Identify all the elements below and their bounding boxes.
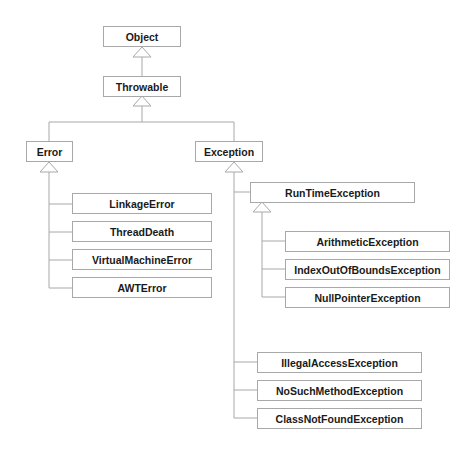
class-node-throwable: Throwable xyxy=(103,76,181,97)
class-node-thread-death: ThreadDeath xyxy=(72,221,212,242)
inheritance-arrow-icon xyxy=(253,202,271,212)
class-node-null-pointer-exception: NullPointerException xyxy=(285,287,450,308)
class-node-object: Object xyxy=(103,26,181,47)
class-node-class-not-found-exception: ClassNotFoundException xyxy=(257,408,422,429)
class-node-index-out-of-bounds-exception: IndexOutOfBoundsException xyxy=(285,259,450,280)
class-hierarchy-diagram: Object Throwable Error Exception Linkage… xyxy=(0,0,475,450)
class-node-exception: Exception xyxy=(195,141,263,162)
inheritance-arrow-icon xyxy=(133,96,151,106)
class-node-arithmetic-exception: ArithmeticException xyxy=(285,231,450,252)
inheritance-arrow-icon xyxy=(225,162,243,172)
class-node-runtime-exception: RunTimeException xyxy=(250,182,415,203)
class-node-error: Error xyxy=(26,141,73,162)
inheritance-arrow-icon xyxy=(133,47,151,57)
class-node-virtual-machine-error: VirtualMachineError xyxy=(72,249,212,270)
class-node-no-such-method-exception: NoSuchMethodException xyxy=(257,380,422,401)
inheritance-arrow-icon xyxy=(40,162,58,172)
class-node-linkage-error: LinkageError xyxy=(72,193,212,214)
class-node-awt-error: AWTError xyxy=(72,277,212,298)
class-node-illegal-access-exception: IllegalAccessException xyxy=(257,352,422,373)
